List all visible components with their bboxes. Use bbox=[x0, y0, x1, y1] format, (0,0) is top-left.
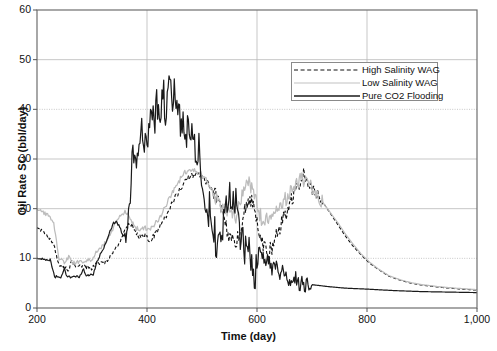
chart-figure: 0102030405060 2004006008001,000 Oil Rate… bbox=[0, 0, 497, 351]
legend-item-low-salinity-wag: Low Salinity WAG bbox=[292, 76, 437, 89]
oil-rate-line-chart bbox=[0, 0, 497, 351]
x-tick-600: 600 bbox=[227, 313, 287, 325]
legend-label-high-salinity-wag: High Salinity WAG bbox=[362, 64, 440, 76]
chart-legend: High Salinity WAG Low Salinity WAG Pure … bbox=[291, 62, 438, 101]
legend-swatch-solid bbox=[294, 90, 360, 102]
x-tick-800: 800 bbox=[337, 313, 397, 325]
legend-swatch-light bbox=[294, 77, 360, 89]
y-tick-0: 0 bbox=[5, 301, 31, 313]
x-tick-1000: 1,000 bbox=[447, 313, 497, 325]
legend-item-high-salinity-wag: High Salinity WAG bbox=[292, 63, 437, 76]
legend-label-low-salinity-wag: Low Salinity WAG bbox=[362, 77, 438, 89]
y-axis-title: Oil Rate SC (bbl/day) bbox=[16, 51, 28, 271]
legend-item-pure-co2-flooding: Pure CO2 Flooding bbox=[292, 89, 437, 102]
legend-label-pure-co2-flooding: Pure CO2 Flooding bbox=[362, 90, 443, 102]
x-tick-400: 400 bbox=[117, 313, 177, 325]
x-tick-200: 200 bbox=[7, 313, 67, 325]
y-tick-60: 60 bbox=[5, 3, 31, 15]
legend-swatch-dashed bbox=[294, 64, 360, 76]
x-axis-title: Time (day) bbox=[0, 330, 497, 342]
